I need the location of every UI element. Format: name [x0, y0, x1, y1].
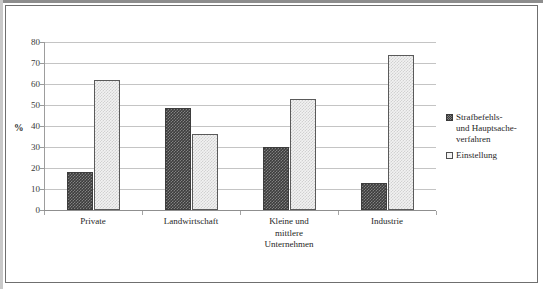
y-axis-tick-label: 50 — [18, 101, 40, 110]
category-separator-tick — [44, 211, 45, 215]
legend-item[interactable]: Einstellung — [446, 150, 538, 161]
gridline — [44, 63, 436, 64]
y-axis-line — [44, 42, 45, 211]
legend-item-label: Einstellung — [456, 150, 497, 161]
bar — [192, 134, 218, 210]
scan-top-edge — [0, 0, 543, 3]
legend-swatch-dark-icon — [446, 114, 453, 121]
bar — [388, 55, 414, 210]
bar — [165, 108, 191, 210]
x-axis-category-label-line: Kleine und — [240, 216, 338, 228]
bar — [263, 147, 289, 210]
bar — [290, 99, 316, 210]
y-axis-tick-label: 20 — [18, 164, 40, 173]
y-axis-tick-label: 60 — [18, 80, 40, 89]
scan-left-edge — [0, 0, 3, 289]
category-separator-tick — [240, 211, 241, 215]
x-axis-category-label: Kleine undmittlereUnternehmen — [240, 216, 338, 251]
category-separator-tick — [436, 211, 437, 215]
category-separator-tick — [338, 211, 339, 215]
x-axis-category-label-line: Unternehmen — [240, 239, 338, 251]
figure-frame: 80706050403020100 % PrivateLandwirtschaf… — [5, 5, 538, 283]
x-axis-category-label: Private — [44, 216, 142, 228]
bar — [361, 183, 387, 210]
y-axis-tick-label: 70 — [18, 59, 40, 68]
x-axis-category-label-line: Private — [44, 216, 142, 228]
chart-legend: Strafbefehls- und Hauptsache- verfahrenE… — [446, 112, 538, 166]
plot-area — [44, 42, 436, 210]
x-axis-category-label-line: mittlere — [240, 228, 338, 240]
scanned-page: 80706050403020100 % PrivateLandwirtschaf… — [0, 0, 543, 289]
y-axis-tick-label: 30 — [18, 143, 40, 152]
bar — [94, 80, 120, 210]
y-axis-tick-label: 80 — [18, 38, 40, 47]
x-axis-category-label: Landwirtschaft — [142, 216, 240, 228]
y-axis-tick-label: 0 — [18, 206, 40, 215]
legend-item[interactable]: Strafbefehls- und Hauptsache- verfahren — [446, 112, 538, 145]
gridline — [44, 42, 436, 43]
y-axis-title: % — [14, 123, 23, 133]
x-axis-category-label: Industrie — [338, 216, 436, 228]
legend-swatch-light-icon — [446, 152, 453, 159]
x-axis-category-label-line: Industrie — [338, 216, 436, 228]
x-axis-category-label-line: Landwirtschaft — [142, 216, 240, 228]
bar-chart: 80706050403020100 % PrivateLandwirtschaf… — [6, 6, 539, 284]
y-axis-tick-label: 10 — [18, 185, 40, 194]
legend-item-label: Strafbefehls- und Hauptsache- verfahren — [456, 112, 517, 145]
x-axis-category-labels: PrivateLandwirtschaftKleine undmittlereU… — [44, 216, 436, 276]
category-separator-tick — [142, 211, 143, 215]
bar — [67, 172, 93, 210]
